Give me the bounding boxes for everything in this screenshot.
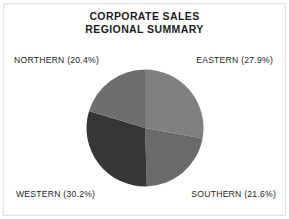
slice-label-southern: SOUTHERN (21.6%) <box>191 189 276 199</box>
pie-slice-group <box>87 70 204 187</box>
chart-title-line-2: REGIONAL SUMMARY <box>0 23 289 36</box>
chart-title: CORPORATE SALES REGIONAL SUMMARY <box>0 10 289 36</box>
pie-slice-eastern <box>145 70 204 139</box>
slice-label-western: WESTERN (30.2%) <box>16 189 95 199</box>
slice-label-northern: NORTHERN (20.4%) <box>14 55 99 65</box>
slice-label-eastern: EASTERN (27.9%) <box>196 55 273 65</box>
chart-title-line-1: CORPORATE SALES <box>89 10 199 22</box>
pie-svg <box>86 69 204 187</box>
pie-chart-figure: CORPORATE SALES REGIONAL SUMMARY NORTHER… <box>0 0 289 219</box>
pie-graphic <box>86 69 204 187</box>
